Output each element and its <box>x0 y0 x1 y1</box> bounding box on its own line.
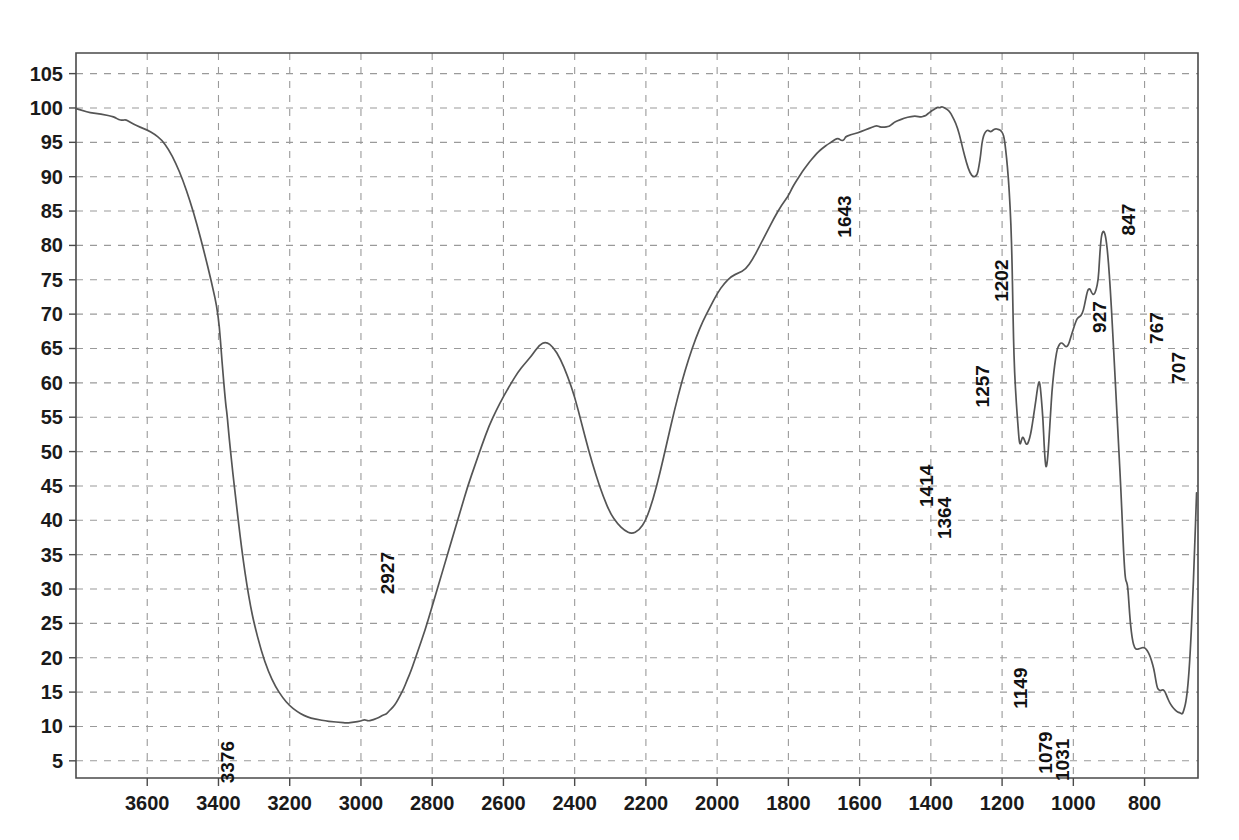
peak-label-group: 847 <box>1118 204 1139 236</box>
spectrum-trace-layer <box>76 107 1197 723</box>
y-tick-label: 5 <box>52 750 63 772</box>
peak-label: 1149 <box>1010 668 1031 709</box>
x-axis-tick-labels: 3600340032003000280026002400220020001800… <box>125 792 1161 814</box>
peak-label: 1257 <box>972 365 993 407</box>
peak-label: 1643 <box>834 195 855 237</box>
y-tick-label: 75 <box>41 269 63 291</box>
spectrum-plot: 5101520253035404550556065707580859095100… <box>0 0 1239 840</box>
x-tick-label: 1200 <box>980 792 1025 814</box>
y-tick-label: 10 <box>41 715 63 737</box>
peak-label-group: 1149 <box>1010 668 1031 709</box>
peak-label: 3376 <box>217 741 238 783</box>
peak-label-group: 927 <box>1089 301 1110 333</box>
x-tick-label: 2400 <box>552 792 597 814</box>
spectrum-trace <box>76 107 1197 723</box>
peak-label: 927 <box>1089 301 1110 333</box>
peak-label-group: 1364 <box>934 496 955 539</box>
y-tick-label: 105 <box>30 63 63 85</box>
x-tick-label: 2600 <box>481 792 526 814</box>
peak-label: 1031 <box>1052 738 1073 781</box>
peak-label-group: 707 <box>1168 352 1189 384</box>
y-tick-label: 80 <box>41 234 63 256</box>
y-tick-label: 30 <box>41 578 63 600</box>
y-tick-label: 20 <box>41 647 63 669</box>
peak-label: 707 <box>1168 352 1189 384</box>
axis-ticks <box>69 74 1145 786</box>
peak-label-group: 767 <box>1146 312 1167 344</box>
y-tick-label: 55 <box>41 406 63 428</box>
x-tick-label: 3600 <box>125 792 170 814</box>
x-tick-label: 2800 <box>410 792 455 814</box>
ftir-spectrum-chart: 5101520253035404550556065707580859095100… <box>0 0 1239 840</box>
x-tick-label: 1800 <box>766 792 811 814</box>
peak-label: 847 <box>1118 204 1139 236</box>
peak-label: 1364 <box>934 496 955 539</box>
x-tick-label: 3000 <box>339 792 384 814</box>
x-tick-label: 1400 <box>909 792 954 814</box>
peak-label: 1202 <box>991 260 1012 302</box>
peak-label-group: 1031 <box>1052 738 1073 781</box>
y-tick-label: 95 <box>41 131 63 153</box>
peak-label-group: 1202 <box>991 260 1012 302</box>
peak-label-group: 3376 <box>217 741 238 783</box>
y-tick-label: 40 <box>41 509 63 531</box>
y-tick-label: 25 <box>41 612 63 634</box>
x-tick-label: 800 <box>1128 792 1161 814</box>
peak-label: 2927 <box>377 552 398 594</box>
y-tick-label: 85 <box>41 200 63 222</box>
peak-labels-layer: 3376292716431414136412571202114910791031… <box>217 195 1189 783</box>
y-tick-label: 35 <box>41 544 63 566</box>
y-tick-label: 100 <box>30 97 63 119</box>
x-tick-label: 3200 <box>267 792 312 814</box>
y-tick-label: 70 <box>41 303 63 325</box>
peak-label-group: 1257 <box>972 365 993 407</box>
y-tick-label: 50 <box>41 441 63 463</box>
y-tick-label: 60 <box>41 372 63 394</box>
y-tick-label: 45 <box>41 475 63 497</box>
y-tick-label: 15 <box>41 681 63 703</box>
x-tick-label: 3400 <box>196 792 241 814</box>
x-tick-label: 1000 <box>1051 792 1096 814</box>
y-axis-tick-labels: 5101520253035404550556065707580859095100… <box>30 63 63 772</box>
x-tick-label: 2000 <box>695 792 740 814</box>
x-tick-label: 2200 <box>624 792 669 814</box>
peak-label-group: 2927 <box>377 552 398 594</box>
peak-label: 767 <box>1146 312 1167 344</box>
y-tick-label: 90 <box>41 166 63 188</box>
y-tick-label: 65 <box>41 337 63 359</box>
x-tick-label: 1600 <box>837 792 882 814</box>
peak-label-group: 1643 <box>834 195 855 237</box>
